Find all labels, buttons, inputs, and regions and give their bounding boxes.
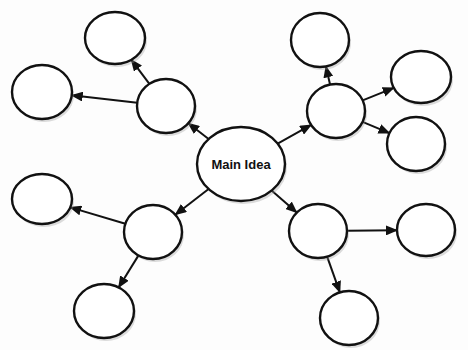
- node-ellipse-tl[interactable]: [137, 79, 195, 133]
- arrow-bl-to-bl-bottom: [119, 255, 139, 287]
- node-tr-lower[interactable]: [387, 117, 447, 174]
- node-br-right[interactable]: [397, 204, 457, 259]
- arrow-tr-to-tr-right: [363, 88, 394, 100]
- node-bl[interactable]: [124, 205, 184, 262]
- node-tl-top[interactable]: [85, 12, 147, 67]
- node-ellipse-br-bottom[interactable]: [320, 291, 378, 345]
- arrow-br-to-br-bottom: [327, 257, 340, 293]
- node-ellipse-tr[interactable]: [307, 84, 365, 138]
- node-ellipse-tr-right[interactable]: [391, 51, 451, 103]
- arrow-bl-to-bl-left: [70, 207, 125, 223]
- arrow-tl-to-tl-left: [72, 95, 137, 102]
- arrow-tl-to-tl-top: [131, 60, 149, 84]
- main-idea-label: Main Idea: [211, 157, 271, 172]
- arrow-main-to-bl: [175, 189, 208, 215]
- node-tr[interactable]: [307, 84, 367, 141]
- node-br[interactable]: [289, 204, 349, 261]
- node-ellipse-tr-top[interactable]: [291, 13, 349, 67]
- node-tr-top[interactable]: [291, 13, 351, 70]
- node-ellipse-tl-left[interactable]: [12, 65, 72, 119]
- node-ellipse-tr-lower[interactable]: [387, 117, 445, 171]
- mind-map-canvas: Main Idea: [0, 0, 468, 350]
- mind-map-diagram: Main Idea: [0, 0, 468, 350]
- arrow-main-to-br: [272, 191, 297, 213]
- arrow-main-to-tr: [278, 125, 311, 144]
- node-ellipse-br[interactable]: [289, 204, 347, 258]
- main-idea-node[interactable]: Main Idea: [197, 127, 287, 204]
- arrow-tr-to-tr-lower: [363, 122, 390, 133]
- node-ellipse-bl-bottom[interactable]: [74, 284, 134, 338]
- node-ellipse-bl-left[interactable]: [12, 174, 72, 224]
- node-tr-right[interactable]: [391, 51, 453, 106]
- node-ellipse-bl[interactable]: [124, 205, 182, 259]
- node-tl-left[interactable]: [12, 65, 74, 122]
- arrow-main-to-tl: [188, 123, 208, 139]
- node-ellipse-br-right[interactable]: [397, 204, 455, 256]
- node-bl-left[interactable]: [12, 174, 74, 227]
- node-tl[interactable]: [137, 79, 197, 136]
- node-br-bottom[interactable]: [320, 291, 380, 348]
- node-ellipse-tl-top[interactable]: [85, 12, 145, 64]
- node-bl-bottom[interactable]: [74, 284, 136, 341]
